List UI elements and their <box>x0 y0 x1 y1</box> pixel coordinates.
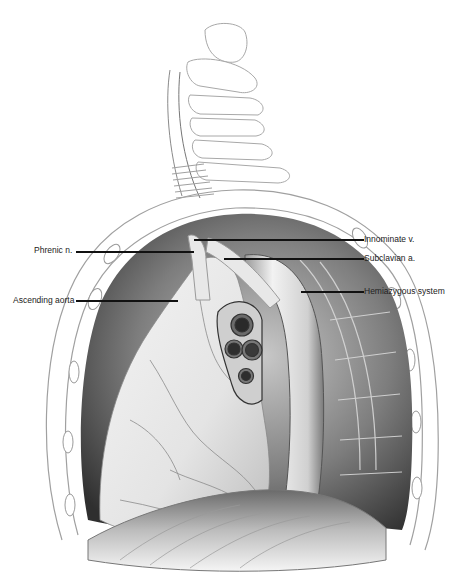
label-hemiazygous-system: Hemiazygous system <box>364 286 445 296</box>
label-phrenic-nerve: Phrenic n. <box>34 245 72 255</box>
leader-ascending-aorta <box>76 300 178 302</box>
leader-innominate-vein <box>194 239 364 241</box>
leader-hemiazygous-system <box>301 291 364 293</box>
label-innominate-vein: Innominate v. <box>364 234 414 244</box>
leader-subclavian-artery <box>224 258 364 260</box>
cervical-spine <box>168 23 290 198</box>
anatomical-illustration: Phrenic n. Ascending aorta Innominate v.… <box>0 0 460 576</box>
leader-phrenic-nerve <box>76 251 194 253</box>
label-ascending-aorta: Ascending aorta <box>13 295 74 305</box>
label-subclavian-artery: Subclavian a. <box>364 253 415 263</box>
